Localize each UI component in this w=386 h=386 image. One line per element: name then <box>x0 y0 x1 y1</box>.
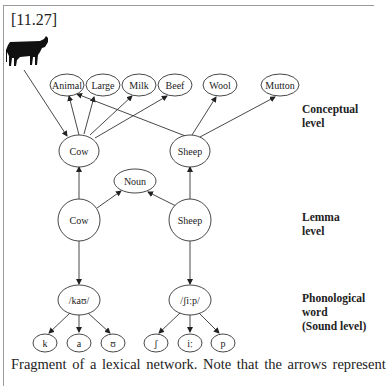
node-phoneme-k: k <box>33 334 57 352</box>
phonological-level-label: Phonological word (Sound level) <box>302 291 366 333</box>
node-large: Large <box>86 74 120 96</box>
svg-text:Noun: Noun <box>124 176 146 187</box>
svg-text:Mutton: Mutton <box>265 80 294 91</box>
svg-text:Cow: Cow <box>70 215 90 226</box>
node-sheep-lemma: Sheep <box>169 199 211 241</box>
node-beef: Beef <box>158 74 192 96</box>
node-phoneme-a: a <box>67 334 91 352</box>
node-wool: Wool <box>203 74 237 96</box>
level-label-line: (Sound level) <box>302 319 366 333</box>
svg-text:ʊ: ʊ <box>110 338 116 349</box>
node-sheep-concept: Sheep <box>170 135 210 167</box>
svg-text:a: a <box>77 338 82 349</box>
level-label-line: Conceptual <box>302 102 358 116</box>
level-label-line: level <box>302 116 358 130</box>
node-animal: Animal <box>50 74 84 96</box>
svg-text:Milk: Milk <box>129 80 148 91</box>
node-kau-phonological: /kaʊ/ <box>58 285 100 315</box>
svg-text:Sheep: Sheep <box>178 215 202 226</box>
svg-text:Animal: Animal <box>52 80 82 91</box>
node-milk: Milk <box>122 74 156 96</box>
lemma-level-label: Lemma level <box>302 210 340 238</box>
svg-text:/ʃiːp/: /ʃiːp/ <box>180 295 200 306</box>
svg-text:ʃ: ʃ <box>153 338 158 349</box>
level-label-line: level <box>302 224 340 238</box>
node-phoneme-ii: iː <box>178 334 202 352</box>
node-cow-concept: Cow <box>59 135 99 167</box>
svg-text:/kaʊ/: /kaʊ/ <box>69 295 90 306</box>
svg-text:Beef: Beef <box>166 80 186 91</box>
svg-text:iː: iː <box>187 338 193 349</box>
svg-text:Wool: Wool <box>209 80 231 91</box>
svg-text:Cow: Cow <box>70 146 90 157</box>
node-phoneme-sh: ʃ <box>144 334 168 352</box>
node-phoneme-p: p <box>211 334 235 352</box>
svg-text:Large: Large <box>91 80 115 91</box>
node-shiip-phonological: /ʃiːp/ <box>169 285 211 315</box>
level-label-line: Lemma <box>302 210 340 224</box>
figure-caption: Fragment of a lexical network. Note that… <box>11 356 386 373</box>
node-phoneme-u: ʊ <box>101 334 125 352</box>
node-mutton: Mutton <box>261 74 299 96</box>
svg-text:p: p <box>221 338 226 349</box>
cow-image-icon <box>6 36 48 66</box>
level-label-line: word <box>302 305 366 319</box>
conceptual-level-label: Conceptual level <box>302 102 358 130</box>
svg-text:k: k <box>43 338 48 349</box>
node-cow-lemma: Cow <box>58 199 100 241</box>
node-noun: Noun <box>114 169 156 193</box>
level-label-line: Phonological <box>302 291 366 305</box>
svg-text:Sheep: Sheep <box>178 146 202 157</box>
